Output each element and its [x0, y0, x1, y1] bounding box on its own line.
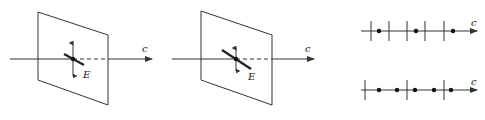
- wave-line-bottom: c: [361, 76, 477, 100]
- field-dot: [377, 29, 381, 33]
- field-dot: [449, 88, 453, 92]
- field-dot: [377, 88, 381, 92]
- center-dot: [71, 57, 75, 61]
- field-dot: [451, 29, 455, 33]
- field-dot: [414, 29, 418, 33]
- label-c: c: [305, 43, 311, 54]
- transverse-wave-plane-2: cE: [172, 11, 314, 105]
- label-e: E: [247, 71, 256, 82]
- field-dot: [432, 88, 436, 92]
- field-dot: [413, 88, 417, 92]
- label-c: c: [471, 17, 477, 28]
- center-dot: [234, 57, 238, 61]
- wave-line-top: c: [361, 17, 477, 41]
- field-dot: [395, 88, 399, 92]
- label-c: c: [471, 76, 477, 87]
- wave-diagram: cE cE c c: [0, 0, 485, 120]
- transverse-wave-plane-1: cE: [10, 12, 152, 105]
- label-e: E: [82, 69, 91, 80]
- label-c: c: [142, 43, 148, 54]
